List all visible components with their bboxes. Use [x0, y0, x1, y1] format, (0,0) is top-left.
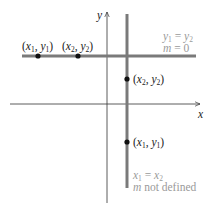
y-axis-label: y	[97, 10, 102, 22]
equation-m-zero: m = 0	[163, 43, 189, 55]
point-label-h2: (x2, y2)	[62, 41, 93, 54]
x-axis-label: x	[198, 109, 203, 121]
point-v1	[124, 139, 129, 144]
point-v2	[124, 76, 129, 81]
equation-m-not-defined: m not defined	[133, 182, 196, 194]
point-label-h1: (x1, y1)	[22, 41, 53, 54]
point-label-v2: (x2, y2)	[133, 74, 164, 87]
point-h1	[35, 53, 40, 58]
point-label-v1: (x1, y1)	[133, 137, 164, 150]
point-h2	[75, 53, 80, 58]
